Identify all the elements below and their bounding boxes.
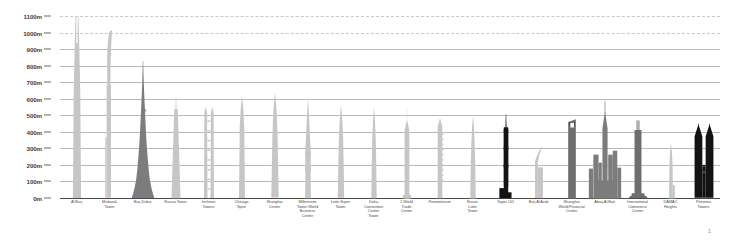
building-silhouette	[130, 61, 156, 198]
y-axis: 1100m1000m900m800m700m600m500m400m300m20…	[0, 0, 54, 240]
y-tick-label-700: 700m	[27, 79, 42, 86]
building-column[interactable]: InternationalCommerceCenter	[621, 16, 654, 198]
building-silhouette	[398, 109, 415, 199]
building-column[interactable]: Burj Dubai	[126, 16, 159, 198]
building-column[interactable]: ShanghaiCenter	[258, 16, 291, 198]
building-silhouette	[464, 114, 481, 198]
y-tick-label-800: 800m	[27, 62, 42, 69]
building-column[interactable]: DAMACHeights	[654, 16, 687, 198]
y-tick-mark-400	[44, 131, 51, 132]
building-column[interactable]: Lotte SuperTower	[324, 16, 357, 198]
building-silhouette	[166, 97, 186, 198]
y-tick-mark-800	[44, 65, 51, 66]
plot-area: Al Burj MubarakTower Burj Dubai Russia T…	[60, 16, 720, 198]
y-tick-label-0: 0m	[33, 195, 42, 202]
building-silhouette	[627, 118, 649, 198]
y-tick-mark-0	[44, 198, 51, 199]
building-column[interactable]: Al Burj	[60, 16, 93, 198]
y-tick-label-400: 400m	[27, 128, 42, 135]
building-silhouette	[529, 145, 549, 198]
building-label-line: Tower	[453, 209, 492, 214]
y-tick-label-1100: 1100m	[24, 13, 42, 20]
building-label-line: Center	[288, 214, 327, 219]
page-number: 1	[708, 228, 711, 234]
y-tick-mark-700	[44, 82, 51, 83]
y-tick-label-100: 100m	[27, 178, 42, 185]
building-column[interactable]: IncheonTowers	[192, 16, 225, 198]
building-silhouette	[562, 117, 581, 198]
building-silhouette	[588, 99, 620, 198]
building-column[interactable]: 1 WorldTradeCenter	[390, 16, 423, 198]
building-silhouette	[365, 107, 382, 198]
building-column[interactable]: PetronasTowers	[687, 16, 720, 198]
building-silhouette	[265, 93, 283, 198]
y-tick-mark-300	[44, 148, 51, 149]
building-silhouette	[298, 99, 316, 198]
building-column[interactable]: MillenniumTower WorldBusinessCenter	[291, 16, 324, 198]
building-column[interactable]: MubarakTower	[93, 16, 126, 198]
y-tick-label-900: 900m	[27, 46, 42, 53]
y-tick-mark-500	[44, 115, 51, 116]
building-column[interactable]: Taipei 101	[489, 16, 522, 198]
building-column[interactable]: BusanLotteTower	[456, 16, 489, 198]
building-label-line: Tower	[90, 205, 129, 210]
building-silhouette	[66, 16, 86, 198]
building-column[interactable]: ShanghaiWorld FinancialCenter	[555, 16, 588, 198]
y-tick-label-500: 500m	[27, 112, 42, 119]
building-column[interactable]: Burj Al Arab	[522, 16, 555, 198]
building-silhouette	[233, 97, 250, 198]
y-tick-mark-1100	[44, 16, 51, 17]
y-tick-label-200: 200m	[27, 161, 42, 168]
building-column[interactable]: Abraj Al Bait	[588, 16, 621, 198]
y-tick-mark-200	[44, 164, 51, 165]
building-silhouette	[332, 106, 350, 198]
y-tick-mark-1000	[44, 32, 51, 33]
building-label-line: Center	[552, 209, 591, 214]
building-column[interactable]: ChicagoSpire	[225, 16, 258, 198]
tallest-buildings-chart: 1100m1000m900m800m700m600m500m400m300m20…	[0, 0, 733, 240]
building-label-line: Center	[618, 209, 657, 214]
y-tick-label-300: 300m	[27, 145, 42, 152]
y-tick-mark-600	[44, 98, 51, 99]
building-silhouette	[100, 30, 120, 198]
building-silhouette	[663, 143, 679, 198]
building-label-line: Center	[387, 209, 426, 214]
building-silhouette	[431, 113, 448, 198]
building-label-line: Towers	[684, 205, 723, 210]
building-silhouette	[496, 114, 514, 198]
bar-series: Al Burj MubarakTower Burj Dubai Russia T…	[60, 16, 720, 198]
building-silhouette	[690, 123, 718, 198]
building-label-line: Tower	[354, 214, 393, 219]
gridline-0	[60, 198, 720, 199]
y-tick-label-600: 600m	[27, 95, 42, 102]
building-column[interactable]: DohaConventionCenterTower	[357, 16, 390, 198]
y-tick-mark-900	[44, 49, 51, 50]
building-silhouette	[199, 101, 218, 198]
building-label: PetronasTowers	[684, 200, 723, 209]
building-column[interactable]: Pentominium	[423, 16, 456, 198]
y-tick-label-1000: 1000m	[23, 29, 42, 36]
y-tick-mark-100	[44, 181, 51, 182]
building-column[interactable]: Russia Tower	[159, 16, 192, 198]
